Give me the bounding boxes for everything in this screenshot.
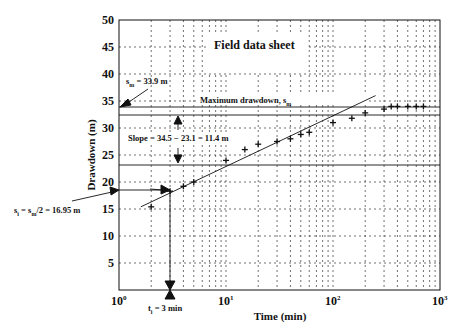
data-point <box>420 103 426 109</box>
data-point <box>394 103 400 109</box>
y-tick-50: 50 <box>102 13 114 27</box>
arrow-icon <box>110 187 119 195</box>
y-tick-35: 35 <box>102 94 114 108</box>
x-axis-label: Time (min) <box>254 310 307 323</box>
si-label: si = sm/2 = 16.95 m <box>14 205 80 217</box>
chart-title: Field data sheet <box>214 38 295 52</box>
data-points <box>148 103 426 209</box>
up-arrow-icon <box>165 290 175 299</box>
y-axis-label: Drawdown (m) <box>85 119 98 191</box>
data-point <box>255 141 261 147</box>
data-point <box>349 115 355 121</box>
data-point <box>242 147 248 153</box>
data-point <box>306 129 312 135</box>
data-point <box>405 103 411 109</box>
down-arrow-icon <box>174 155 182 163</box>
up-arrow-icon <box>174 116 182 124</box>
down-arrow-icon <box>165 281 175 290</box>
arrow-icon <box>161 185 170 194</box>
ti-label: ti = 3 min <box>148 303 182 315</box>
drawdown-chart: 5 10 15 20 25 30 35 40 45 50 100 101 102… <box>0 0 463 336</box>
y-tick-20: 20 <box>102 175 114 189</box>
max-drawdown-label: Maximum drawdown, sm <box>200 95 291 107</box>
data-point <box>388 103 394 109</box>
y-tick-45: 45 <box>102 40 114 54</box>
data-point <box>180 183 186 189</box>
x-tick-1: 100 <box>111 294 127 308</box>
arrow-icon <box>120 99 131 107</box>
y-tick-40: 40 <box>102 67 114 81</box>
y-axis-ticks: 5 10 15 20 25 30 35 40 45 50 <box>102 13 114 270</box>
x-tick-10: 101 <box>218 294 234 308</box>
y-tick-5: 5 <box>108 256 114 270</box>
sm-arrow <box>120 89 148 107</box>
y-tick-15: 15 <box>102 202 114 216</box>
data-point <box>330 120 336 126</box>
y-tick-10: 10 <box>102 229 114 243</box>
x-tick-1000: 103 <box>432 294 448 308</box>
x-tick-100: 102 <box>325 294 341 308</box>
slope-label: Slope = 34.5 − 23.1 = 11.4 m <box>128 133 228 143</box>
data-point <box>223 157 229 163</box>
data-point <box>191 179 197 185</box>
y-tick-25: 25 <box>102 148 114 162</box>
y-tick-30: 30 <box>102 121 114 135</box>
data-point <box>413 103 419 109</box>
sm-label: sm = 33.9 m <box>126 76 168 88</box>
